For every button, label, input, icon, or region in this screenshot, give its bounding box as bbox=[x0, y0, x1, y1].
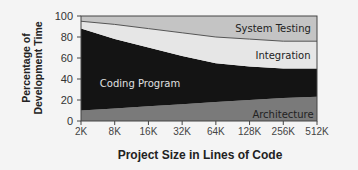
y-tick-label: 100 bbox=[55, 10, 73, 22]
y-tick-label: 40 bbox=[61, 73, 73, 85]
x-tick-label: 2K bbox=[75, 126, 87, 137]
x-tick-label: 64K bbox=[207, 126, 225, 137]
x-tick-label: 8K bbox=[109, 126, 121, 137]
series-label-architecture: Architecture bbox=[252, 109, 313, 120]
y-tick-label: 20 bbox=[61, 94, 73, 106]
x-tick-label: 16K bbox=[140, 126, 158, 137]
series-label-integration: Integration bbox=[255, 50, 310, 61]
y-tick-label: 60 bbox=[61, 52, 73, 64]
y-tick-label: 80 bbox=[61, 31, 73, 43]
x-tick-label: 128K bbox=[238, 126, 261, 137]
series-label-system-testing: System Testing bbox=[235, 23, 311, 34]
x-tick-label: 32K bbox=[173, 126, 191, 137]
x-axis-label: Project Size in Lines of Code bbox=[0, 148, 358, 162]
x-tick-label: 256K bbox=[272, 126, 295, 137]
series-label-coding-program: Coding Program bbox=[100, 78, 180, 89]
y-tick-label: 0 bbox=[67, 115, 73, 127]
x-tick-label: 512K bbox=[305, 126, 328, 137]
